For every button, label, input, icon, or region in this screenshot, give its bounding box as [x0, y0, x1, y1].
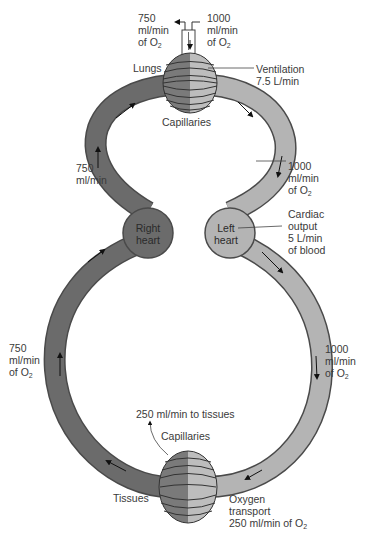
systemic-arterial-vessel	[206, 245, 322, 487]
circulation-graphic	[0, 0, 379, 558]
label-lungs: Lungs	[133, 62, 162, 74]
lung-capillaries	[163, 53, 217, 113]
label-left-heart: Left heart	[204, 222, 248, 246]
label-oxygen-transport: Oxygen transport 250 ml/min of O2	[229, 493, 307, 529]
pulmonary-artery-vessel	[96, 85, 170, 212]
oxygen-circulation-diagram: 750 ml/min of O2 1000 ml/min of O2 Lungs…	[0, 0, 379, 558]
label-venous-o2: 750 ml/min of O2	[9, 342, 40, 378]
label-pulmonary-vein-o2: 1000 ml/min of O2	[288, 160, 319, 196]
label-right-heart: Right heart	[126, 222, 170, 246]
label-inhaled-o2: 1000 ml/min of O2	[207, 12, 238, 48]
label-lung-capillaries: Capillaries	[162, 116, 211, 128]
label-exhaled-o2: 750 ml/min of O2	[138, 12, 169, 48]
label-to-tissues: 250 ml/min to tissues	[136, 408, 235, 420]
pulmonary-vein-vessel	[210, 85, 286, 212]
systemic-venous-vessel	[55, 245, 170, 487]
label-tissues: Tissues	[113, 492, 149, 504]
tissue-capillaries	[159, 451, 217, 523]
label-tissue-capillaries: Capillaries	[161, 430, 210, 442]
label-pulmonary-flow: 750 ml/min	[76, 162, 107, 186]
label-arterial-o2: 1000 ml/min of O2	[325, 343, 356, 379]
label-ventilation: Ventilation 7.5 L/min	[256, 63, 304, 87]
label-cardiac-output: Cardiac output 5 L/min of blood	[288, 208, 325, 256]
